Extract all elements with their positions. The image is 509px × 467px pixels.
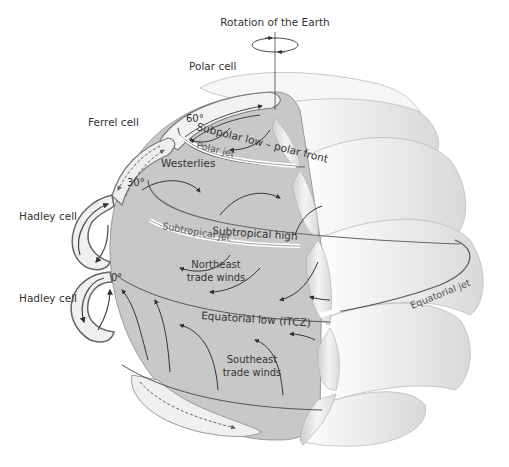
label-westerlies: Westerlies [161, 157, 215, 169]
label-se-trades-1: Southeast [227, 354, 278, 365]
label-polar-cell: Polar cell [189, 60, 236, 72]
atmospheric-circulation-diagram: Rotation of the Earth Polar cell Ferrel … [0, 0, 509, 467]
label-ne-trades-1: Northeast [191, 259, 240, 270]
lat-0: 0° [111, 272, 122, 283]
label-ne-trades-2: trade winds [187, 272, 246, 283]
hadley-cell-south [71, 272, 114, 342]
label-hadley-cell-south: Hadley cell [19, 292, 77, 304]
title-rotation: Rotation of the Earth [220, 16, 329, 28]
label-ferrel-cell: Ferrel cell [88, 116, 139, 128]
label-hadley-cell-north: Hadley cell [19, 210, 77, 222]
label-se-trades-2: trade winds [223, 367, 282, 378]
hadley-cell-north [72, 195, 114, 270]
lat-30: 30° [127, 177, 145, 188]
